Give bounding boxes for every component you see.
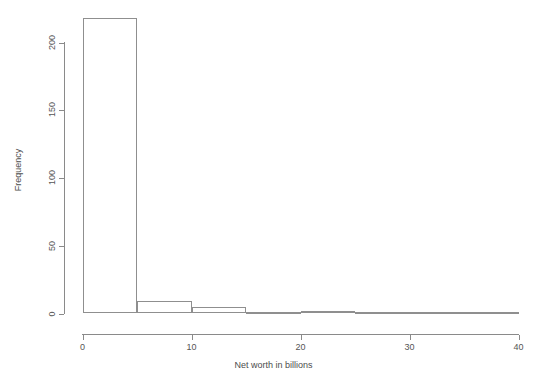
- histogram-bar: [137, 301, 192, 313]
- y-axis-tick: [59, 178, 64, 179]
- y-axis-title: Frequency: [13, 130, 23, 210]
- x-axis-tick: [410, 335, 411, 340]
- x-axis-tick-label: 40: [513, 342, 523, 353]
- x-axis-tick-label: 10: [186, 342, 196, 353]
- x-axis-tick: [519, 335, 520, 340]
- x-axis-tick-label: 20: [295, 342, 305, 353]
- histogram-bar: [83, 18, 138, 313]
- histogram-bar: [192, 307, 247, 314]
- histogram-plot: 010203040 050100150200 Net worth in bill…: [0, 0, 547, 386]
- bars-layer: [0, 0, 547, 386]
- y-axis-line: [64, 42, 65, 314]
- y-axis-tick-label: 200: [47, 36, 57, 50]
- histogram-bar: [464, 312, 519, 314]
- y-axis-tick-label: 50: [47, 239, 57, 253]
- histogram-bar: [355, 312, 410, 314]
- x-axis-tick-label: 0: [80, 342, 85, 353]
- x-axis-title: Net worth in billions: [0, 360, 547, 370]
- histogram-bar: [410, 312, 465, 314]
- y-axis-tick-label: 100: [47, 171, 57, 185]
- y-axis-tick: [59, 110, 64, 111]
- x-axis-tick: [192, 335, 193, 340]
- histogram-bar: [246, 312, 301, 314]
- x-axis-tick: [301, 335, 302, 340]
- y-axis-tick: [59, 246, 64, 247]
- y-axis-tick: [59, 43, 64, 44]
- histogram-bar: [301, 311, 356, 314]
- x-axis-tick-label: 30: [404, 342, 414, 353]
- x-axis-tick: [83, 335, 84, 340]
- y-axis-tick: [59, 314, 64, 315]
- y-axis-tick-label: 0: [47, 307, 57, 321]
- y-axis-tick-label: 150: [47, 103, 57, 117]
